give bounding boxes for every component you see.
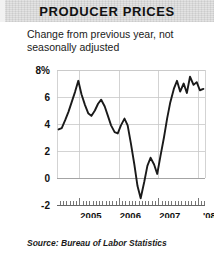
axis-ticks-group: [57, 198, 205, 205]
x-axis-tick-label-2006: 2006: [120, 210, 141, 218]
x-axis-labels-group: 200520062007'08: [80, 210, 214, 218]
y-axis-tick-label-6: 6: [44, 92, 50, 103]
producer-prices-chart-card: PRODUCER PRICES Change from previous yea…: [0, 0, 214, 253]
y-axis-labels-group: 8%6420-2: [36, 65, 51, 211]
chart-header-band: PRODUCER PRICES: [0, 0, 214, 22]
y-axis-tick-label-4: 4: [44, 119, 50, 130]
chart-subtitle-line-2: seasonally adjusted: [27, 41, 205, 54]
chart-area: 8%6420-2 200520062007'08: [0, 58, 214, 218]
chart-subtitle-line-1: Change from previous year, not: [27, 28, 205, 41]
x-axis-tick-label-2007: 2007: [159, 210, 180, 218]
data-series-group: [59, 77, 204, 199]
x-axis-tick-label-08: '08: [203, 210, 214, 218]
y-axis-tick-label-0: 0: [44, 173, 50, 184]
source-note: Source: Bureau of Labor Statistics: [27, 238, 167, 248]
header-left-edge: [0, 0, 5, 22]
x-axis-tick-label-2005: 2005: [80, 210, 102, 218]
page-title: PRODUCER PRICES: [39, 4, 174, 19]
data-line-series-0: [59, 77, 204, 199]
y-axis-tick-label--2: -2: [41, 200, 50, 211]
line-chart-svg: 8%6420-2 200520062007'08: [0, 58, 214, 218]
y-axis-tick-label-2: 2: [44, 146, 50, 157]
chart-subtitle: Change from previous year, not seasonall…: [27, 28, 205, 53]
y-axis-tick-label-8: 8%: [36, 65, 51, 76]
